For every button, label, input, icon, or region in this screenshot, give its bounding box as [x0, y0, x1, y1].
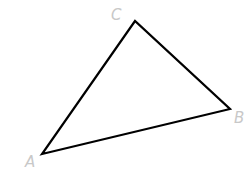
- vertex-label-b: B: [234, 109, 244, 127]
- vertex-label-a: A: [24, 153, 35, 169]
- vertex-label-c: C: [111, 6, 122, 24]
- triangle-diagram: A B C: [0, 0, 252, 169]
- triangle-abc: [42, 21, 230, 154]
